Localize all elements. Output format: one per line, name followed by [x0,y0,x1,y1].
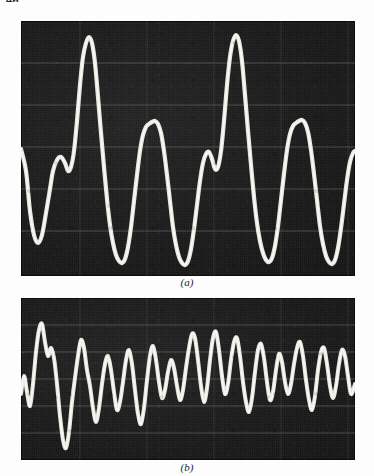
graticule-a [21,21,355,276]
caption-a: (a) [0,276,374,288]
oscillogram-panel-a [21,21,355,276]
page-folio: 46 [6,0,19,2]
oscillogram-panel-b [21,298,355,460]
caption-b: (b) [0,461,374,473]
waveform-plot-a [21,21,355,276]
waveform-trace-b [21,323,355,448]
figure-page: 46 (a) (b) [0,0,374,476]
waveform-plot-b [21,298,355,460]
